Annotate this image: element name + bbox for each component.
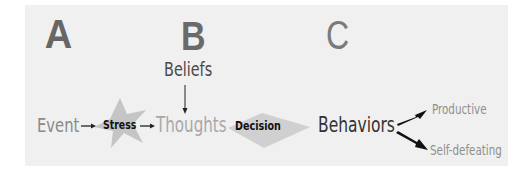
to-productive-arrow [397, 110, 427, 126]
column-letter-b: B [181, 16, 206, 56]
stress-to-thoughts-arrow [140, 124, 155, 129]
to-self-defeating-arrow [396, 131, 428, 150]
beliefs-to-thoughts-arrow [183, 85, 188, 114]
node-self-defeating: Self-defeating [430, 142, 502, 158]
node-productive: Productive [432, 101, 487, 117]
column-letter-a: A [45, 14, 72, 54]
node-stress: Stress [103, 117, 136, 132]
node-thoughts: Thoughts [156, 113, 227, 137]
node-decision: Decision [235, 118, 281, 133]
node-behaviors: Behaviors [318, 113, 395, 137]
node-beliefs: Beliefs [164, 57, 212, 81]
column-letter-c: C [326, 15, 349, 55]
node-event: Event [37, 113, 79, 137]
event-to-stress-arrow [81, 124, 96, 129]
